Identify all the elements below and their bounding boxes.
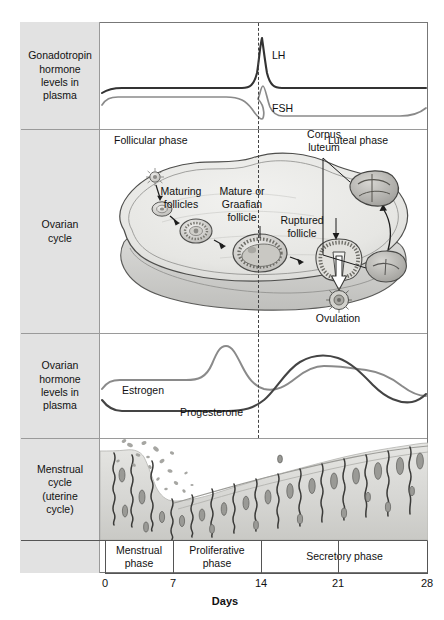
fsh-curve (102, 86, 426, 119)
phase-cell-menstrual: Menstrual phase (105, 541, 173, 573)
tick-7 (173, 568, 174, 574)
ovulation-dashed-line-hormones (258, 334, 259, 438)
tick-label-0: 0 (90, 577, 120, 589)
uterine-cycle-panel (100, 439, 428, 540)
lh-label: LH (272, 49, 285, 61)
gonadotropin-chart-panel: LH FSH (100, 23, 428, 129)
tick-label-21: 21 (323, 577, 353, 589)
progesterone-label: Progesterone (180, 406, 243, 418)
ovarian-cycle-panel: Follicular phase Luteal phase Maturing f… (100, 130, 428, 333)
follicular-phase-label: Follicular phase (114, 134, 188, 147)
row-label-menstrual-cycle-text: Menstrual cycle (uterine cycle) (37, 463, 83, 517)
ovulation-label: Ovulation (305, 312, 371, 325)
tick-label-7: 7 (158, 577, 188, 589)
ovulation-dashed-line-top (258, 23, 259, 129)
row-label-gonadotropin: Gonadotropin hormone levels in plasma (20, 23, 100, 129)
phase-cell-proliferative: Proliferative phase (173, 541, 261, 573)
row-label-gonadotropin-text: Gonadotropin hormone levels in plasma (28, 49, 92, 103)
figure-root: Gonadotropin hormone levels in plasma Ov… (0, 0, 444, 620)
ovarian-hormone-chart-panel: Estrogen Progesterone (100, 334, 428, 438)
tick-21 (338, 568, 339, 574)
secondary-follicle (180, 219, 212, 243)
endometrium-illustration (100, 439, 428, 540)
tick-28 (427, 568, 428, 574)
row-label-menstrual-cycle: Menstrual cycle (uterine cycle) (20, 439, 100, 540)
tick-label-14: 14 (246, 577, 276, 589)
tick-0 (105, 568, 106, 574)
x-axis-title: Days (195, 595, 255, 607)
ovulation-dashed-line-ovary (258, 130, 259, 333)
graafian-follicle-label: Mature or Graafian follicle (213, 185, 271, 223)
ovum (326, 287, 352, 313)
row-label-ovarian-hormones-text: Ovarian hormone levels in plasma (39, 359, 80, 413)
fsh-label: FSH (272, 102, 293, 114)
row-label-ovarian-cycle: Ovarian cycle (20, 130, 100, 333)
graafian-follicle-shape (233, 234, 287, 272)
row-label-ovarian-cycle-text: Ovarian cycle (42, 218, 79, 245)
corpus-luteum-early (366, 251, 406, 282)
phase-cell-secretory: Secretory phase (261, 541, 428, 573)
ovarian-hormone-curves: Estrogen Progesterone (100, 334, 428, 438)
axis-baseline (105, 573, 428, 574)
uterine-phase-row: Menstrual phase Proliferative phase Secr… (100, 541, 428, 573)
tick-label-28: 28 (412, 577, 442, 589)
gonadotropin-curves: LH FSH (100, 23, 428, 129)
tick-14 (261, 568, 262, 574)
ovary-illustration (100, 130, 428, 333)
maturing-follicles-label: Maturing follicles (150, 185, 212, 211)
corpus-luteum-label: Corpus luteum (297, 130, 351, 154)
ruptured-follicle-label: Ruptured follicle (273, 214, 331, 240)
lh-curve (102, 38, 426, 93)
estrogen-label: Estrogen (122, 384, 164, 396)
row-label-ovarian-hormones: Ovarian hormone levels in plasma (20, 334, 100, 438)
